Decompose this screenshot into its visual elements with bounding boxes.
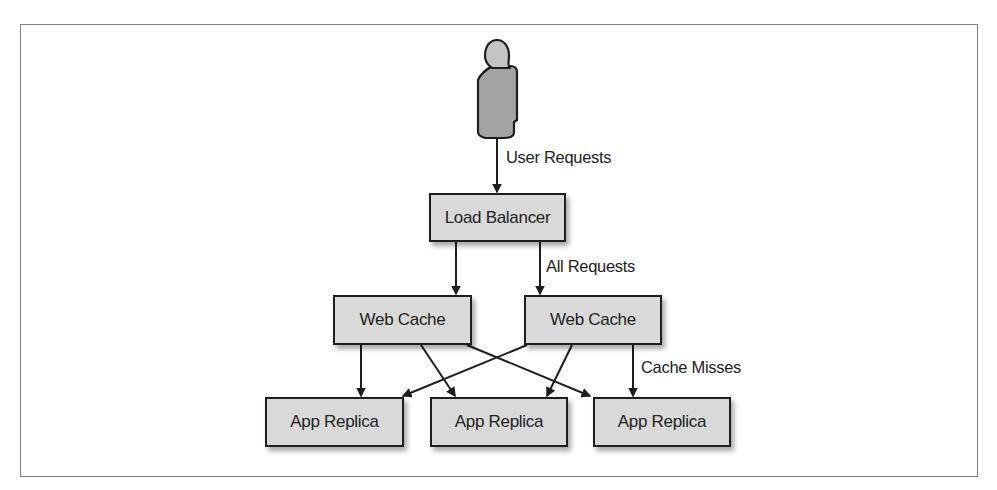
node-web-cache-2: Web Cache <box>524 295 662 345</box>
node-label: Load Balancer <box>445 208 551 228</box>
node-load-balancer: Load Balancer <box>429 193 566 242</box>
person-icon <box>470 36 526 142</box>
node-web-cache-1: Web Cache <box>333 295 472 345</box>
edge-label-all-requests: All Requests <box>546 256 635 276</box>
node-app-replica-2: App Replica <box>430 397 568 447</box>
node-label: Web Cache <box>550 310 636 330</box>
node-label: App Replica <box>290 412 378 432</box>
node-label: Web Cache <box>360 310 446 330</box>
node-label: App Replica <box>455 412 543 432</box>
node-app-replica-1: App Replica <box>265 397 404 447</box>
edge-label-user-requests: User Requests <box>506 147 611 167</box>
node-label: App Replica <box>618 412 706 432</box>
node-app-replica-3: App Replica <box>593 397 731 447</box>
edge-label-cache-misses: Cache Misses <box>641 357 741 377</box>
